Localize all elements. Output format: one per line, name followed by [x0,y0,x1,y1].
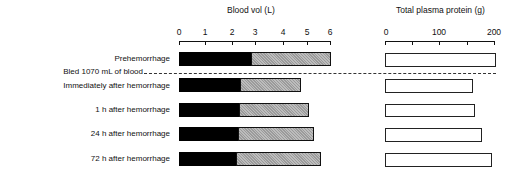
protein-tick-50 [412,41,413,45]
protein-tick-label-0: 0 [384,27,389,37]
protein-tick-200 [494,41,495,45]
protein-bar-prehemorrhage [385,53,496,67]
row-label-immediately: Immediately after hemorrhage [0,81,170,90]
row-label-72h: 72 h after hemorrhage [0,154,170,163]
protein-bar-1h [385,104,475,117]
row-label-24h: 24 h after hemorrhage [0,129,170,138]
protein-bar-72h [385,153,492,167]
plasma-bar-immediately [240,78,301,92]
row-label-prehemorrhage: Prehemorrhage [0,54,170,63]
protein-tick-100 [439,41,440,45]
protein-tick-label-200: 200 [487,27,501,37]
rbc-bar-72h [179,152,236,166]
rbc-bar-1h [179,103,239,117]
protein-tick-0 [385,41,386,45]
rbc-bar-immediately [179,78,240,92]
plasma-bar-prehemorrhage [251,52,331,66]
rbc-bar-24h [179,127,238,141]
protein-bar-immediately [385,79,473,93]
rbc-bar-prehemorrhage [179,52,251,66]
row-label-1h: 1 h after hemorrhage [0,105,170,114]
protein-tick-label-100: 100 [432,27,446,37]
protein-bar-24h [385,128,482,142]
protein-tick-150 [467,41,468,45]
hemorrhage-dashed-line [144,73,496,74]
plasma-bar-72h [236,152,321,166]
plasma-bar-1h [239,103,309,117]
protein-axis-line [385,41,495,42]
plasma-bar-24h [238,127,314,141]
protein-axis: 0 100 200 [0,0,513,50]
bled-annotation: Bled 1070 mL of blood [0,67,143,76]
